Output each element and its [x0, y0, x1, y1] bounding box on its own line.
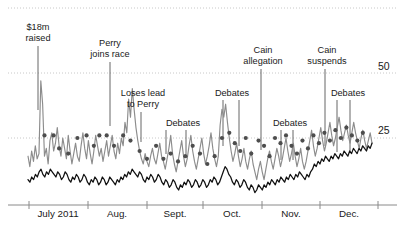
poll-dot: [198, 152, 202, 156]
chart-annotation: Debates: [135, 118, 231, 129]
poll-dot: [176, 159, 180, 163]
poll-dot: [112, 144, 116, 148]
poll-dot: [213, 154, 217, 158]
poll-dot: [42, 133, 46, 137]
poll-dot: [57, 146, 61, 150]
x-axis-tick-label: Dec.: [309, 208, 389, 219]
poll-dot: [191, 144, 195, 148]
poll-dot: [344, 126, 348, 130]
chart-annotation: Debates: [242, 118, 338, 129]
poll-dot: [128, 139, 132, 143]
chart-annotation: Perry joins race: [62, 38, 158, 59]
y-axis-tick-label: 50: [378, 60, 390, 72]
poll-dot: [154, 144, 158, 148]
chart-annotation: Debates: [300, 88, 396, 99]
poll-dot: [97, 133, 101, 137]
poll-dot: [273, 136, 277, 140]
poll-dot: [138, 149, 142, 153]
poll-dot: [169, 152, 173, 156]
poll-dot: [333, 128, 337, 132]
poll-dot: [267, 154, 271, 158]
poll-dot: [52, 133, 56, 137]
chart-annotation: Debates: [184, 88, 280, 99]
poll-dot: [317, 141, 321, 145]
poll-dot: [256, 139, 260, 143]
poll-dot: [306, 146, 310, 150]
poll-dot: [311, 133, 315, 137]
y-axis-tick-label: 25: [378, 124, 390, 136]
chart-annotation: Loses lead to Perry: [95, 88, 191, 109]
poll-dot: [350, 133, 354, 137]
poll-dot: [161, 157, 165, 161]
poll-dot: [322, 131, 326, 135]
poll-dot: [300, 139, 304, 143]
poll-dot: [249, 152, 253, 156]
chart-annotation: Cain suspends: [279, 45, 375, 66]
poll-tracking-chart: $18m raisedPerry joins raceLoses lead to…: [0, 0, 405, 232]
poll-dot: [66, 152, 70, 156]
poll-dot: [284, 133, 288, 137]
poll-dot: [278, 141, 282, 145]
poll-dot: [121, 133, 125, 137]
poll-dot: [220, 136, 224, 140]
poll-dot: [183, 154, 187, 158]
poll-dot: [244, 136, 248, 140]
poll-dot: [145, 157, 149, 161]
poll-dot: [355, 139, 359, 143]
poll-dot: [233, 141, 237, 145]
poll-dot: [227, 131, 231, 135]
poll-dot: [328, 139, 332, 143]
poll-dot: [262, 144, 266, 148]
poll-dot: [295, 152, 299, 156]
poll-dot: [339, 136, 343, 140]
poll-dot: [238, 149, 242, 153]
poll-dot: [84, 133, 88, 137]
poll-dot: [205, 162, 209, 166]
poll-dot: [289, 144, 293, 148]
poll-dot: [361, 131, 365, 135]
poll-dot: [92, 144, 96, 148]
poll-dot: [75, 136, 79, 140]
poll-dot: [105, 133, 109, 137]
